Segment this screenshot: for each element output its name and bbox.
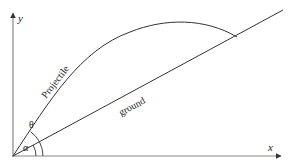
projectile-diagram: y x Projectile ground θ α — [0, 0, 292, 166]
alpha-arc-inner — [33, 145, 36, 156]
alpha-label: α — [23, 142, 29, 153]
ground-label: ground — [117, 95, 147, 118]
alpha-arc-outer — [39, 142, 43, 156]
theta-label: θ — [29, 119, 34, 130]
x-axis-label: x — [267, 141, 273, 153]
theta-arc — [31, 132, 40, 142]
y-axis-label: y — [17, 12, 23, 24]
diagram-svg: y x Projectile ground θ α — [0, 0, 292, 166]
